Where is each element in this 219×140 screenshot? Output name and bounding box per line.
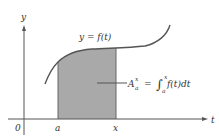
area-lhs-subscript: a [135,84,139,91]
area-formula: A a x = ∫ x a f(t)dt [127,73,191,94]
area-equals: = [144,79,152,89]
t-axis-arrow-icon [202,117,208,121]
y-axis-label: y [20,12,27,22]
origin-label: 0 [15,123,21,133]
area-lhs-superscript: x [135,75,139,82]
curve-label: y = f(t) [78,32,112,42]
y-axis-arrow-icon [22,25,26,31]
area-lhs-base: A [127,79,135,89]
area-function-diagram: y t 0 a x y = f(t) A a x = ∫ x a f(t)dt [0,0,219,140]
integral-lower-limit: a [162,87,166,94]
tick-label-x: x [113,123,118,133]
shaded-area-region [58,48,116,119]
tick-label-a: a [55,123,60,133]
t-axis-label: t [211,115,215,125]
integrand: f(t)dt [166,79,191,89]
